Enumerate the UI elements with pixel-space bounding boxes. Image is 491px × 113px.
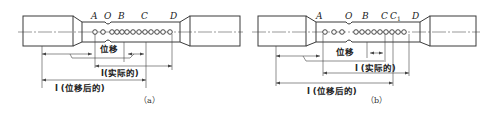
- gauge-top-b: [316, 22, 420, 24]
- point-label-B-a: B: [117, 11, 125, 21]
- panel-a: A O B C D 位移 l(实际的) l (位移后的) （a）: [18, 11, 243, 105]
- gauge-bottom-a: [82, 40, 180, 42]
- left-taper-b: [306, 16, 316, 46]
- displacement-label-b: 位移: [336, 47, 354, 57]
- right-taper-b: [420, 16, 430, 46]
- tensile-specimen-diagram: A O B C D 位移 l(实际的) l (位移后的) （a）: [0, 0, 491, 113]
- caption-a: （a）: [139, 96, 160, 105]
- point-label-D-b: D: [411, 11, 419, 21]
- left-grip-b: [258, 16, 306, 46]
- l-after-label-a: l (位移后的): [55, 83, 105, 93]
- l-actual-label-a: l(实际的): [101, 68, 139, 78]
- panel-b: A O B C C1 D 位移 l (实际的) l (位移后的) （b）: [252, 11, 480, 105]
- displacement-label-a: 位移: [100, 44, 118, 54]
- point-label-B-b: B: [361, 11, 369, 21]
- l-actual-label-b: l (实际的): [355, 63, 396, 73]
- point-label-O-b: O: [345, 11, 353, 21]
- gauge-bottom-b: [316, 40, 420, 42]
- right-taper-a: [180, 16, 190, 46]
- right-grip-a: [190, 16, 240, 46]
- gauge-marks-a: [93, 30, 173, 35]
- point-label-C1-b: C1: [390, 11, 401, 22]
- point-label-C-a: C: [141, 11, 148, 21]
- point-label-D-a: D: [169, 11, 177, 21]
- left-grip-a: [23, 16, 73, 46]
- point-label-A-b: A: [315, 11, 323, 21]
- l-after-label-b: l (位移后的): [307, 86, 357, 96]
- right-grip-b: [430, 16, 476, 46]
- gauge-top-a: [82, 22, 180, 24]
- gauge-marks-b: [323, 30, 407, 35]
- left-taper-a: [73, 16, 82, 46]
- caption-b: （b）: [366, 96, 387, 105]
- point-label-A-a: A: [90, 11, 98, 21]
- point-label-C-b: C: [381, 11, 388, 21]
- point-label-O-a: O: [104, 11, 112, 21]
